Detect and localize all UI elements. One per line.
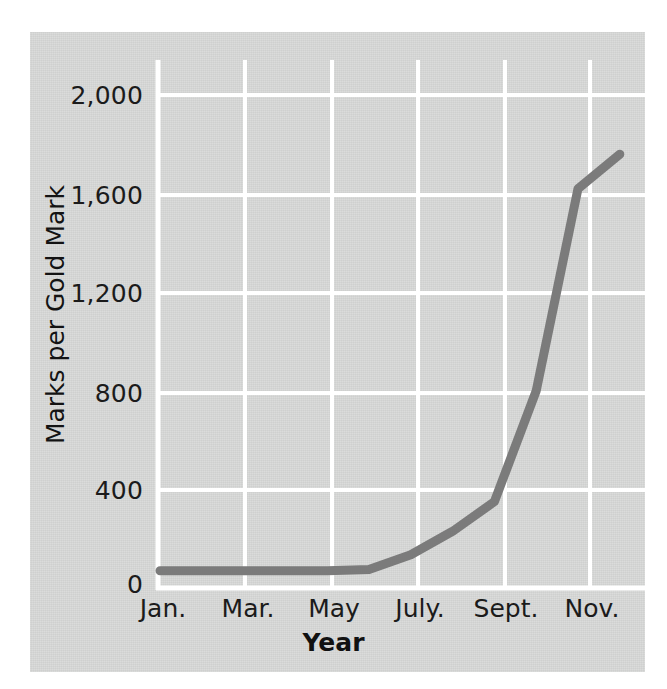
x-tick-nov: Nov. [547,596,637,621]
y-axis-title: Marks per Gold Mark [41,165,70,465]
x-tick-july: July. [375,596,465,621]
data-line-marks-per-gold-mark [160,154,620,571]
y-tick-0: 0 [28,572,143,597]
x-tick-may: May [289,596,379,621]
x-tick-jan: Jan. [118,596,208,621]
axis-spines [156,60,645,590]
x-axis-title: Year [0,628,667,657]
y-tick-2000: 2,000 [28,83,143,108]
x-tick-sept: Sept. [461,596,551,621]
y-tick-400: 400 [28,478,143,503]
chart-figure: 2,000 1,600 1,200 800 400 0 Jan. Mar. Ma… [0,0,667,689]
vertical-gridlines [245,60,590,588]
horizontal-gridlines [158,95,645,490]
x-tick-mar: Mar. [203,596,293,621]
